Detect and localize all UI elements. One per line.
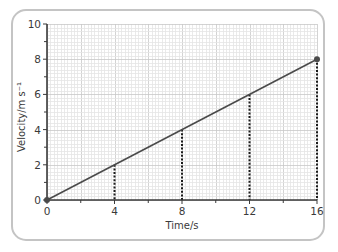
y-tick-label: 10 (28, 18, 41, 30)
y-tick-label: 4 (34, 124, 41, 136)
x-tick-label: 8 (179, 205, 186, 217)
x-tick-label: 12 (243, 205, 256, 217)
y-tick-label: 0 (34, 194, 41, 206)
velocity-time-graph: 04812160246810 Time/s Velocity/m s⁻¹ (0, 0, 338, 252)
y-tick-label: 2 (34, 159, 41, 171)
y-tick-label: 6 (34, 88, 41, 100)
endpoint-marker (314, 56, 320, 62)
x-tick-label: 4 (111, 205, 118, 217)
x-tick-label: 16 (310, 205, 324, 217)
endpoint-marker (44, 197, 50, 203)
y-tick-label: 8 (34, 53, 41, 65)
y-axis-title: Velocity/m s⁻¹ (16, 82, 27, 152)
x-tick-label: 0 (44, 205, 51, 217)
x-axis-title: Time/s (164, 220, 198, 231)
